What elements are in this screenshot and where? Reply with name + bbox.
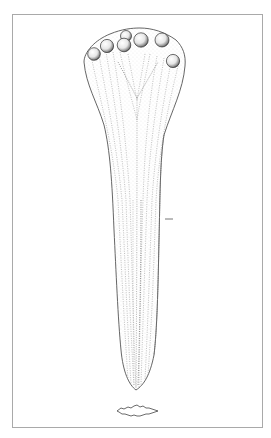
knob [117,38,131,52]
knob [88,48,101,61]
knob [166,54,179,67]
artifact-body [84,28,185,390]
knob [155,33,169,47]
knob [134,33,148,47]
knob [100,39,113,52]
cross-section-outline [117,405,158,416]
artifact-drawing [0,0,271,438]
